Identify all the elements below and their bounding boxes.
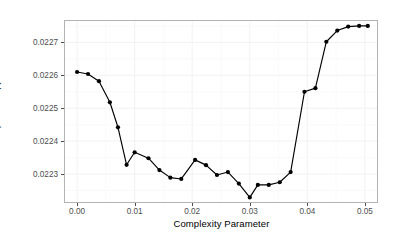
x-tick-label: 0.05: [357, 207, 373, 216]
x-tick-label: 0.00: [69, 207, 85, 216]
x-axis-title: Complexity Parameter: [64, 218, 379, 229]
chart-figure: RMSE (Bootstrap) 0.02230.02240.02250.022…: [0, 0, 399, 241]
x-axis-tick-labels: 0.000.010.020.030.040.05: [0, 0, 399, 241]
x-tick-label: 0.03: [242, 207, 258, 216]
x-tick-label: 0.02: [184, 207, 200, 216]
x-tick-label: 0.04: [299, 207, 315, 216]
x-tick-label: 0.01: [127, 207, 143, 216]
